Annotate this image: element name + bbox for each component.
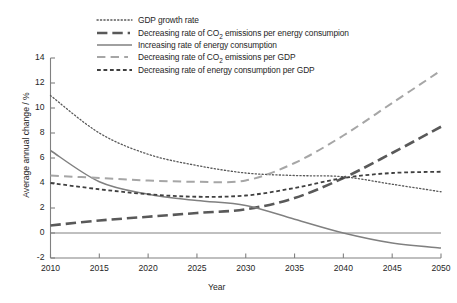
x-axis-tick-label: 2010 [31, 263, 71, 273]
medium-dash-line-swatch [96, 51, 136, 63]
short-dash-line-swatch [96, 64, 136, 76]
x-axis-tick-label: 2035 [275, 263, 315, 273]
long-dash-line-swatch [96, 27, 136, 39]
y-axis-tick-label: -2 [21, 252, 45, 262]
x-axis-tick-label: 2030 [226, 263, 266, 273]
solid-line-swatch [96, 39, 136, 51]
x-axis-tick-label: 2040 [323, 263, 363, 273]
legend-item-label: GDP growth rate [138, 15, 199, 25]
legend-item[interactable]: Decreasing rate of energy consumption pe… [96, 64, 426, 76]
x-axis-tick-label: 2020 [128, 263, 168, 273]
x-axis-tick-label: 2050 [421, 263, 457, 273]
series-line-1 [51, 96, 442, 192]
chart-container: 14121086420-2 20102015202020252030203520… [0, 0, 457, 303]
y-axis-tick-label: 14 [21, 52, 45, 62]
legend-item-label: Decreasing rate of energy consumption pe… [138, 65, 315, 75]
legend-item-label: Increasing rate of energy consumption [138, 40, 277, 50]
legend-item-label: Decreasing rate of CO2 emissions per GDP [138, 52, 295, 62]
series-line-4 [51, 71, 442, 183]
series-group [51, 71, 442, 249]
y-axis-tick-label: 0 [21, 227, 45, 237]
x-axis-tick-label: 2015 [79, 263, 119, 273]
x-axis-tick-label: 2045 [372, 263, 412, 273]
series-line-5 [51, 172, 442, 197]
legend-item[interactable]: Increasing rate of energy consumption [96, 39, 426, 51]
y-axis-title: Average annual change / % [21, 65, 31, 225]
legend-item[interactable]: GDP growth rate [96, 14, 426, 26]
series-line-2 [51, 127, 442, 226]
chart-legend: GDP growth rateDecreasing rate of CO2 em… [96, 14, 426, 76]
legend-item[interactable]: Decreasing rate of CO2 emissions per ene… [96, 26, 426, 38]
dotted-line-swatch [96, 14, 136, 26]
x-axis-tick-label: 2025 [177, 263, 217, 273]
legend-item-label: Decreasing rate of CO2 emissions per ene… [138, 28, 349, 38]
legend-item[interactable]: Decreasing rate of CO2 emissions per GDP [96, 51, 426, 63]
x-axis-title: Year [208, 282, 225, 292]
